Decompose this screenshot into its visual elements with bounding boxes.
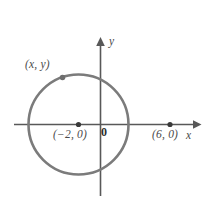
circle-diagram-figure: (x, y) (−2, 0) (6, 0) 0 x y [0,0,209,201]
center-label: (−2, 0) [53,129,87,141]
x-axis-label: x [186,130,191,142]
y-axis-arrowhead [96,37,105,46]
y-axis-label: y [109,36,114,48]
point-on-circle-label: (x, y) [25,59,50,71]
center-point-marker [76,122,81,127]
origin-label: 0 [101,126,107,138]
x-intercept-point-marker [167,122,172,127]
figure-canvas [0,0,209,201]
x-intercept-label: (6, 0) [152,129,178,141]
point-on-circle-marker [60,75,66,81]
x-axis-arrowhead [193,120,202,129]
